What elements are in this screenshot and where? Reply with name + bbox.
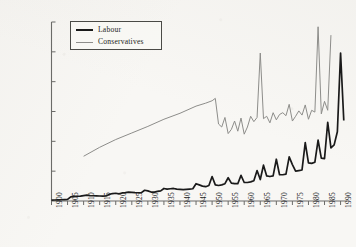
x-axis-tick-label: 1990 <box>344 192 353 208</box>
x-axis-tick-label: 1970 <box>280 192 289 208</box>
x-axis-tick-label: 1925 <box>135 192 144 208</box>
x-axis-tick-label: 1900 <box>55 192 64 208</box>
legend-item-labour: Labour <box>76 24 157 36</box>
legend-swatch-conservatives-icon <box>76 42 93 43</box>
legend-swatch-labour-icon <box>76 29 93 31</box>
legend-label-conservatives: Conservatives <box>98 38 144 46</box>
x-axis-tick-label: 1955 <box>231 192 240 208</box>
x-axis-tick-label: 1930 <box>151 192 160 208</box>
x-axis-tick-label: 1920 <box>119 192 128 208</box>
x-axis-tick-label: 1960 <box>247 192 256 208</box>
x-axis-tick-label: 1940 <box>183 192 192 208</box>
x-axis-tick-label: 1985 <box>328 192 337 208</box>
line-chart: 05,00010,00015,00020,00025,00030,000 190… <box>0 0 356 247</box>
chart-plot-area <box>0 0 356 247</box>
x-axis-tick-label: 1980 <box>312 192 321 208</box>
x-axis-tick-label: 1905 <box>71 192 80 208</box>
x-axis-tick-label: 1975 <box>296 192 305 208</box>
legend-label-labour: Labour <box>98 26 121 34</box>
x-axis-tick-label: 1965 <box>263 192 272 208</box>
x-axis-tick-label: 1950 <box>215 192 224 208</box>
legend-item-conservatives: Conservatives <box>76 36 157 48</box>
x-axis-tick-label: 1915 <box>103 192 112 208</box>
x-axis-tick-label: 1935 <box>167 192 176 208</box>
chart-legend: Labour Conservatives <box>70 21 162 50</box>
x-axis-tick-label: 1910 <box>87 192 96 208</box>
series-line-labour <box>52 53 344 200</box>
x-axis-tick-label: 1945 <box>199 192 208 208</box>
